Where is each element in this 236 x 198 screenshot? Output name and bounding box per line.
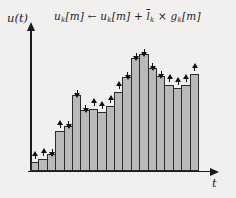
x-axis-arrow-icon — [210, 168, 219, 176]
up-arrow-icon — [91, 98, 98, 106]
down-arrow-icon — [158, 71, 165, 79]
figure: u(t) uk[m] ← uk[m] + lk × gk[m] t — [0, 0, 236, 198]
formula-token: [m] — [112, 10, 131, 22]
up-arrow-icon — [191, 63, 198, 71]
formula-token: ← — [84, 10, 100, 22]
y-axis-arrow-icon — [27, 22, 35, 31]
up-arrow-icon — [166, 74, 173, 82]
formula-token: [m] — [65, 10, 84, 22]
x-axis-label: t — [212, 176, 217, 190]
up-arrow-icon — [32, 151, 39, 159]
formula-token: [m] — [182, 10, 201, 22]
up-arrow-icon — [175, 77, 182, 85]
formula-token: + — [130, 10, 146, 22]
down-arrow-icon — [141, 49, 148, 57]
y-axis-label: u(t) — [7, 11, 28, 25]
formula-token: g — [171, 10, 178, 22]
formula: uk[m] ← uk[m] + lk × gk[m] — [54, 10, 201, 24]
bar — [190, 74, 199, 171]
formula-token: × — [155, 10, 171, 22]
formula-token: u — [54, 10, 61, 22]
down-arrow-icon — [74, 90, 81, 98]
down-arrow-icon — [149, 63, 156, 71]
